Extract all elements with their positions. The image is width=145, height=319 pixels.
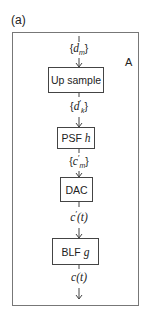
block-psf-h: PSF h xyxy=(57,127,95,149)
signal-c-t: c(t) xyxy=(49,271,109,283)
block-blf-g: BLF g xyxy=(52,238,99,265)
signal-c-prime-t: c′(t) xyxy=(49,209,109,223)
signal-cm-prime: {c′m} xyxy=(49,153,109,169)
block-up-sample: Up sample xyxy=(48,67,104,93)
signal-dk-prime: {d′k} xyxy=(49,98,109,114)
signal-input-dm: {dm} xyxy=(49,42,109,56)
block-dac: DAC xyxy=(60,177,93,202)
